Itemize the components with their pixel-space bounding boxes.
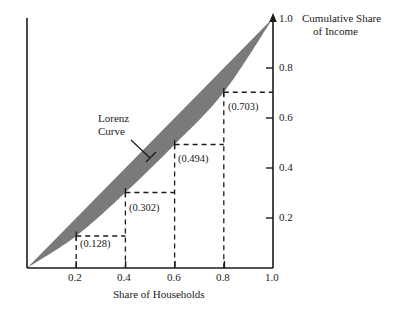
x-axis-title: Share of Households bbox=[113, 288, 205, 301]
x-tick-label-0.6: 0.6 bbox=[167, 271, 181, 284]
x-tick-label-0.8: 0.8 bbox=[216, 271, 230, 284]
y-axis-title-line2: of Income bbox=[302, 25, 381, 38]
lorenz-curve-annotation: Lorenz Curve bbox=[98, 112, 129, 137]
data-point-label-4: (0.703) bbox=[228, 101, 259, 113]
x-tick-label-0.4: 0.4 bbox=[117, 271, 131, 284]
data-point-label-3: (0.494) bbox=[178, 153, 209, 165]
x-tick-label-0.2: 0.2 bbox=[68, 271, 82, 284]
data-point-label-2: (0.302) bbox=[129, 202, 160, 214]
lorenz-curve-figure: 0.2 0.4 0.6 0.8 1.0 Share of Households … bbox=[0, 0, 401, 316]
y-tick-label-0.2: 0.2 bbox=[279, 211, 293, 224]
y-tick-label-1.0: 1.0 bbox=[279, 12, 293, 25]
inequality-gap-shading bbox=[27, 18, 273, 268]
x-tick-label-1.0: 1.0 bbox=[265, 271, 279, 284]
y-axis-arrowhead bbox=[269, 13, 277, 22]
y-axis-title-line1: Cumulative Share bbox=[302, 12, 381, 24]
lorenz-curve-annotation-line2: Curve bbox=[98, 125, 125, 137]
y-tick-label-0.8: 0.8 bbox=[279, 61, 293, 74]
lorenz-curve-annotation-line1: Lorenz bbox=[98, 112, 129, 124]
y-axis-title: Cumulative Share of Income bbox=[302, 12, 381, 37]
data-point-label-1: (0.128) bbox=[80, 238, 111, 250]
y-tick-label-0.6: 0.6 bbox=[279, 111, 293, 124]
y-tick-label-0.4: 0.4 bbox=[279, 161, 293, 174]
